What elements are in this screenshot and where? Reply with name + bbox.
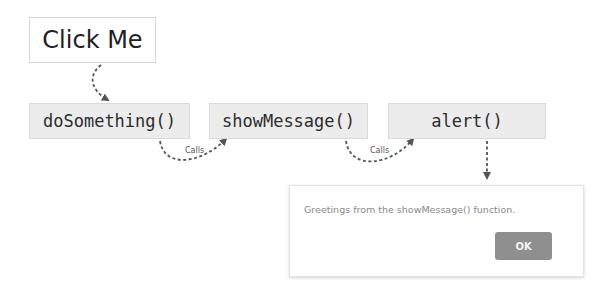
function-box-alert: alert() [388, 103, 546, 139]
arrow-click-to-dosomething [93, 65, 108, 100]
ok-button[interactable]: OK [495, 232, 552, 260]
function-box-dosomething: doSomething() [29, 103, 190, 139]
edge-label-calls: Calls [185, 146, 204, 155]
click-me-button[interactable]: Click Me [29, 17, 156, 63]
dialog-message: Greetings from the showMessage() functio… [304, 204, 515, 215]
edge-label-calls: Calls [370, 146, 389, 155]
alert-dialog: Greetings from the showMessage() functio… [289, 185, 584, 277]
click-me-label: Click Me [42, 26, 142, 54]
function-label: alert() [431, 111, 503, 131]
function-label: doSomething() [43, 111, 176, 131]
function-box-showmessage: showMessage() [209, 103, 368, 139]
function-label: showMessage() [222, 111, 355, 131]
